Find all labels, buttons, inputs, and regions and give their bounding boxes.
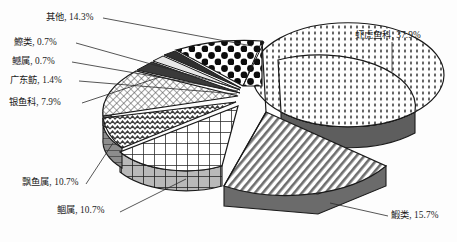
slice-label-gu-genus: 鲴属, 10.7% bbox=[57, 206, 105, 215]
pie-chart-figure: 其他, 14.3% 鰶类, 0.7% 鳡属, 0.7% 广东鲂, 1.4% 银鱼… bbox=[0, 0, 457, 242]
slice-label-silverfish: 银鱼科, 7.9% bbox=[9, 98, 61, 107]
slice-label-piao-genus: 飘鱼属, 10.7% bbox=[22, 178, 79, 187]
leader-line-xia bbox=[330, 203, 388, 216]
slice-label-goby: 虾虎鱼科, 37.9% bbox=[355, 31, 421, 40]
leader-line-other bbox=[103, 18, 252, 46]
slice-label-other: 其他, 14.3% bbox=[46, 13, 94, 22]
slice-label-xia: 鰕类, 15.7% bbox=[391, 211, 439, 220]
slice-label-shad: 鰶类, 0.7% bbox=[14, 38, 57, 47]
slice-label-gan-genus: 鳡属, 0.7% bbox=[12, 57, 55, 66]
slice-label-guangdong-fang: 广东鲂, 1.4% bbox=[10, 76, 62, 85]
leader-line-piao bbox=[86, 143, 113, 184]
